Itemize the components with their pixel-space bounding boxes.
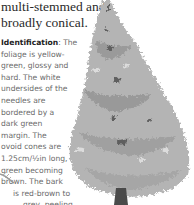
conifer-tree-illustration: [66, 0, 194, 205]
identification-label: Identification: [1, 38, 58, 47]
tree-trunk: [114, 188, 128, 205]
book-page: multi-stemmed and broadly conical. Ident…: [0, 0, 194, 205]
branch-fragment-icon: [0, 170, 16, 184]
